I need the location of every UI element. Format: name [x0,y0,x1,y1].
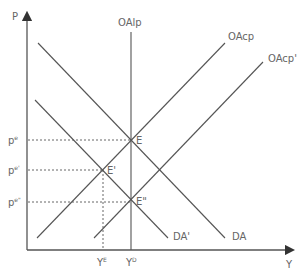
ad-as-diagram: P Y OAlp OAcp OAcp' DA DA' E E' E" pe pe… [0,0,305,276]
oacp-label: OAcp [228,31,254,42]
price-axis-label: P [12,11,18,22]
point-e-label: E [136,135,142,146]
output-level-ye: YE [96,256,107,268]
da-prime-label: DA' [173,231,190,242]
oalp-label: OAlp [118,17,142,28]
price-level-pe-double-prime: pe" [8,196,21,208]
oacp-prime-label: OAcp' [268,53,297,64]
point-e-prime-label: E' [107,165,116,176]
price-level-pe: pe [8,134,18,146]
point-e-double-prime-label: E" [136,196,147,207]
price-level-pe-prime: pe' [8,164,20,176]
da-label: DA [232,231,247,242]
output-axis-label: Y [285,259,293,270]
oacp-prime-curve [94,62,263,238]
da-prime-curve [35,100,168,238]
output-level-yd: YD [125,256,137,268]
